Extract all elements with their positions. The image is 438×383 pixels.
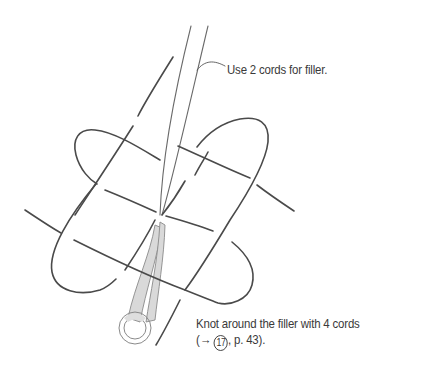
step-number-circled: 17 [214,335,228,351]
knot-annotation-line2: (→ 17, p. 43). [196,332,360,351]
filler-leader-line [197,62,225,70]
filler-annotation: Use 2 cords for filler. [227,62,327,78]
key-ring [119,312,151,344]
filler-cord-1 [160,26,191,215]
filler-annotation-text: Use 2 cords for filler. [227,62,327,77]
working-cords [25,57,294,345]
knot-annotation-line1: Knot around the filler with 4 cords [196,316,360,332]
filler-cords [160,26,208,215]
knot-annotation: Knot around the filler with 4 cords (→ 1… [196,316,360,351]
knot-reference-prefix: (→ [196,332,214,347]
filler-cord-2 [162,26,208,215]
knot-reference-suffix: , p. 43). [228,332,265,347]
